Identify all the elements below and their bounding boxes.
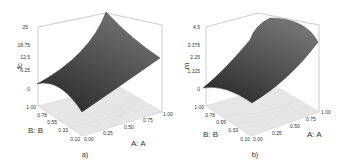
chart-b-ytick: 0.78 xyxy=(205,112,215,118)
chart-b-ytick: 0.33 xyxy=(228,127,238,133)
chart-b-ytick: 0.10 xyxy=(240,136,250,142)
chart-a-ytick: 0.55 xyxy=(47,119,57,125)
chart-a-ylabel: B: B xyxy=(28,126,43,135)
chart-b-ylabel: B: B xyxy=(203,130,218,139)
chart-a-ztick: 12.5 xyxy=(20,54,30,60)
chart-b-ztick: 3.375 xyxy=(187,42,200,48)
chart-a-xtick: 0.75 xyxy=(143,117,153,123)
chart-b-xtick: 0.50 xyxy=(290,123,300,129)
chart-a-xlabel: A: A xyxy=(131,139,146,148)
chart-a-xtick: 0.00 xyxy=(84,136,94,142)
figure: 25 18.75 12.5 6.25 0 fc 1.00 0.78 0.55 0… xyxy=(0,0,345,165)
chart-b-xtick: 0.00 xyxy=(253,136,263,142)
chart-b-ztick: 0 xyxy=(197,86,200,92)
chart-a-ytick: 1.00 xyxy=(26,104,36,110)
chart-a-ytick: 0.78 xyxy=(37,112,47,118)
chart-a-xtick: 1.00 xyxy=(163,111,173,117)
chart-a-caption: a) xyxy=(82,150,89,159)
chart-a-ztick: 25 xyxy=(22,24,28,30)
chart-b-caption: b) xyxy=(252,150,259,159)
chart-a-xtick: 0.25 xyxy=(103,130,113,136)
chart-a-ztick: 18.75 xyxy=(17,42,30,48)
chart-b-ztick: 2.25 xyxy=(190,54,200,60)
chart-a: 25 18.75 12.5 6.25 0 fc 1.00 0.78 0.55 0… xyxy=(15,12,173,159)
chart-a-ytick: 0.33 xyxy=(58,127,68,133)
chart-a-ztick: 0 xyxy=(27,86,30,92)
chart-b-ytick: 0.55 xyxy=(216,119,226,125)
chart-a-zlabel: fc xyxy=(15,63,24,69)
chart-b-zlabel: m xyxy=(182,62,191,69)
chart-a-ytick: 0.10 xyxy=(70,136,80,142)
chart-b-xtick: 0.75 xyxy=(306,116,316,122)
chart-b-xtick: 1.00 xyxy=(321,109,331,115)
chart-b-ytick: 1.00 xyxy=(194,104,204,110)
chart-b: 4.5 3.375 2.25 1.125 0 m 1.00 0.78 0.55 … xyxy=(182,13,331,159)
chart-a-xtick: 0.50 xyxy=(124,124,134,130)
chart-b-xlabel: A: A xyxy=(307,130,322,139)
chart-b-ztick: 4.5 xyxy=(193,24,200,30)
chart-b-xtick: 0.25 xyxy=(272,130,282,136)
